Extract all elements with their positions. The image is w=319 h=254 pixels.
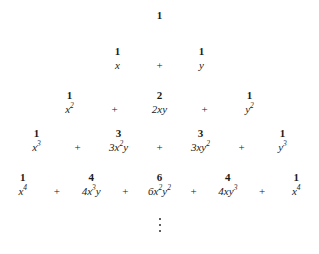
plus-sign: + bbox=[259, 184, 265, 199]
binomial-coefficient: 3 bbox=[116, 126, 122, 140]
plus-operator: ++ bbox=[225, 126, 259, 155]
expansion-cell: 44xy3 bbox=[205, 170, 251, 199]
expansion-cell: 66x2y2 bbox=[137, 170, 183, 199]
plus-sign: + bbox=[156, 58, 162, 73]
plus-sign: + bbox=[74, 140, 80, 155]
plus-sign: + bbox=[111, 102, 117, 117]
expansion-cell: 1x4 bbox=[0, 170, 46, 199]
binomial-coefficient: 3 bbox=[198, 126, 204, 140]
plus-operator: ++ bbox=[139, 44, 181, 73]
plus-operator: ++ bbox=[61, 126, 95, 155]
expansion-row-power-1: 1x++1y bbox=[0, 44, 319, 73]
plus-sign: + bbox=[156, 140, 162, 155]
expansion-term: x4 bbox=[18, 184, 27, 199]
expansion-cell: 1x4 bbox=[273, 170, 319, 199]
binomial-coefficient: 1 bbox=[280, 126, 286, 140]
binomial-coefficient: 1 bbox=[293, 170, 299, 184]
expansion-term: y3 bbox=[278, 140, 287, 155]
plus-sign: + bbox=[201, 102, 207, 117]
plus-sign: + bbox=[54, 184, 60, 199]
binomial-coefficient: 6 bbox=[157, 170, 163, 184]
expansion-term: 3x2y bbox=[109, 140, 128, 155]
plus-sign: + bbox=[191, 184, 197, 199]
expansion-cell: 1y bbox=[181, 44, 223, 73]
expansion-row-power-3: 1x3++33x2y++33xy2++1y3 bbox=[0, 126, 319, 155]
expansion-cell: 1x2 bbox=[46, 88, 94, 117]
expansion-row-power-4: 1x4++44x3y++66x2y2++44xy3++1x4 bbox=[0, 170, 319, 199]
expansion-cell: 1x bbox=[97, 44, 139, 73]
vertical-ellipsis bbox=[0, 218, 319, 232]
plus-operator: ++ bbox=[143, 126, 177, 155]
expansion-term: x3 bbox=[32, 140, 41, 155]
expansion-term: x2 bbox=[65, 102, 74, 117]
expansion-term: 4xy3 bbox=[218, 184, 237, 199]
expansion-term: y2 bbox=[245, 102, 254, 117]
plus-operator: ++ bbox=[251, 170, 274, 199]
expansion-term: 6x2y2 bbox=[148, 184, 171, 199]
expansion-term: 4x3y bbox=[82, 184, 101, 199]
binomial-coefficient: 1 bbox=[247, 88, 253, 102]
ellipsis-dot bbox=[159, 218, 161, 220]
plus-operator: ++ bbox=[94, 88, 136, 117]
binomial-coefficient: 1 bbox=[115, 44, 121, 58]
expansion-cell: 33xy2 bbox=[177, 126, 225, 155]
expansion-term: x bbox=[115, 58, 120, 73]
ellipsis-dot bbox=[159, 230, 161, 232]
ellipsis-dot bbox=[159, 224, 161, 226]
expansion-row-power-2: 1x2++22xy++1y2 bbox=[0, 88, 319, 117]
plus-sign: + bbox=[122, 184, 128, 199]
binomial-coefficient: 4 bbox=[88, 170, 94, 184]
plus-operator: ++ bbox=[46, 170, 69, 199]
expansion-term: 2xy bbox=[152, 102, 167, 117]
expansion-term: y bbox=[199, 58, 204, 73]
expansion-cell: 33x2y bbox=[95, 126, 143, 155]
expansion-cell: 1 bbox=[129, 8, 191, 37]
expansion-cell: 22xy bbox=[136, 88, 184, 117]
binomial-coefficient: 1 bbox=[157, 8, 163, 22]
plus-sign: + bbox=[238, 140, 244, 155]
expansion-term: x4 bbox=[292, 184, 301, 199]
expansion-term: 3xy2 bbox=[191, 140, 210, 155]
expansion-cell: 1y2 bbox=[226, 88, 274, 117]
binomial-coefficient: 1 bbox=[20, 170, 26, 184]
plus-operator: ++ bbox=[114, 170, 137, 199]
expansion-row-power-0: 1 bbox=[0, 8, 319, 37]
binomial-coefficient: 1 bbox=[199, 44, 205, 58]
binomial-expansion-figure: 11x++1y1x2++22xy++1y21x3++33x2y++33xy2++… bbox=[0, 0, 319, 254]
binomial-coefficient: 1 bbox=[34, 126, 40, 140]
expansion-cell: 1y3 bbox=[259, 126, 307, 155]
plus-operator: ++ bbox=[184, 88, 226, 117]
expansion-cell: 44x3y bbox=[68, 170, 114, 199]
plus-operator: ++ bbox=[182, 170, 205, 199]
binomial-coefficient: 2 bbox=[157, 88, 163, 102]
binomial-coefficient: 1 bbox=[67, 88, 73, 102]
binomial-coefficient: 4 bbox=[225, 170, 231, 184]
expansion-cell: 1x3 bbox=[13, 126, 61, 155]
